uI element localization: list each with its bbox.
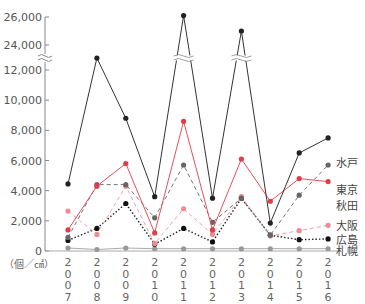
y-tick-label: 6,000 bbox=[11, 155, 43, 168]
y-tick-label: 0 bbox=[35, 245, 42, 258]
legend-label-東京: 東京 bbox=[336, 183, 358, 197]
legend-label-札幌: 札幌 bbox=[336, 244, 358, 258]
x-tick-label: 2010 bbox=[151, 256, 158, 304]
svg-text:5: 5 bbox=[296, 291, 303, 304]
data-point bbox=[123, 201, 128, 206]
legend-label-秋田: 秋田 bbox=[336, 199, 358, 213]
legend-label-大阪: 大阪 bbox=[336, 219, 358, 233]
data-point bbox=[123, 116, 128, 121]
data-point bbox=[210, 232, 215, 237]
svg-text:0: 0 bbox=[151, 291, 158, 304]
svg-text:7: 7 bbox=[65, 291, 72, 304]
legend-label-水戸: 水戸 bbox=[336, 157, 358, 170]
data-point bbox=[123, 182, 128, 187]
svg-text:6: 6 bbox=[325, 291, 332, 304]
svg-text:4: 4 bbox=[267, 291, 274, 304]
y-tick-label: 26,000 bbox=[4, 11, 43, 24]
data-point bbox=[94, 55, 99, 60]
svg-text:8: 8 bbox=[93, 291, 100, 304]
data-point bbox=[239, 246, 244, 251]
data-point bbox=[152, 241, 157, 246]
data-point bbox=[210, 227, 215, 232]
data-point bbox=[152, 194, 157, 199]
data-point bbox=[268, 246, 273, 251]
line-break-icon bbox=[174, 55, 194, 62]
svg-text:9: 9 bbox=[122, 291, 129, 304]
x-tick-label: 2014 bbox=[267, 256, 274, 304]
data-point bbox=[181, 226, 186, 231]
x-tick-label: 2009 bbox=[122, 256, 129, 304]
data-point bbox=[210, 246, 215, 251]
x-tick-label: 2008 bbox=[93, 256, 100, 304]
data-point bbox=[181, 246, 186, 251]
data-point bbox=[181, 119, 186, 124]
data-point bbox=[297, 228, 302, 233]
data-point bbox=[94, 247, 99, 252]
svg-text:3: 3 bbox=[238, 291, 245, 304]
data-point bbox=[268, 220, 273, 225]
y-tick-label: 24,000 bbox=[4, 39, 43, 52]
data-point bbox=[326, 236, 331, 241]
data-point bbox=[326, 246, 331, 251]
svg-text:2: 2 bbox=[209, 291, 216, 304]
data-point bbox=[326, 135, 331, 140]
unit-label: （個／㎠） bbox=[4, 258, 54, 270]
x-tick-label: 2011 bbox=[180, 256, 187, 304]
svg-text:1: 1 bbox=[180, 291, 187, 304]
data-point bbox=[123, 245, 128, 250]
data-point bbox=[297, 193, 302, 198]
data-point bbox=[65, 208, 70, 213]
axis-break-icon bbox=[38, 55, 52, 62]
series-layer bbox=[65, 13, 330, 252]
line-break-icon bbox=[231, 55, 251, 62]
y-tick-label: 2,000 bbox=[11, 215, 43, 228]
data-point bbox=[239, 156, 244, 161]
x-tick-label: 2012 bbox=[209, 256, 216, 304]
x-tick-label: 2015 bbox=[296, 256, 303, 304]
y-tick-label: 12,000 bbox=[4, 64, 43, 77]
data-point bbox=[65, 181, 70, 186]
legend: 水戸東京秋田大阪広島札幌 bbox=[336, 157, 358, 258]
series-秋田 bbox=[65, 119, 330, 236]
data-point bbox=[210, 196, 215, 201]
y-tick-label: 8,000 bbox=[11, 124, 43, 137]
data-point bbox=[297, 246, 302, 251]
data-point bbox=[297, 150, 302, 155]
data-point bbox=[326, 162, 331, 167]
data-point bbox=[123, 161, 128, 166]
data-point bbox=[65, 235, 70, 240]
data-point bbox=[94, 184, 99, 189]
data-point bbox=[94, 232, 99, 237]
x-axis: 2007200820092010201120122013201420152016 bbox=[45, 251, 340, 304]
data-point bbox=[94, 226, 99, 231]
x-tick-label: 2013 bbox=[238, 256, 245, 304]
data-point bbox=[152, 215, 157, 220]
y-tick-label: 4,000 bbox=[11, 185, 43, 198]
data-point bbox=[152, 230, 157, 235]
x-tick-label: 2016 bbox=[325, 256, 332, 304]
y-axis: 02,0004,0006,0008,00010,00012,00024,0002… bbox=[4, 11, 53, 258]
data-point bbox=[326, 223, 331, 228]
data-point bbox=[181, 206, 186, 211]
y-tick-label: 10,000 bbox=[4, 94, 43, 107]
data-point bbox=[268, 199, 273, 204]
data-point bbox=[210, 239, 215, 244]
data-point bbox=[268, 233, 273, 238]
data-point bbox=[181, 13, 186, 18]
data-point bbox=[65, 245, 70, 250]
data-point bbox=[239, 28, 244, 33]
x-tick-label: 2007 bbox=[65, 256, 72, 304]
data-point bbox=[297, 176, 302, 181]
data-point bbox=[65, 227, 70, 232]
data-point bbox=[326, 179, 331, 184]
data-point bbox=[152, 246, 157, 251]
data-point bbox=[239, 196, 244, 201]
line-chart: 02,0004,0006,0008,00010,00012,00024,0002… bbox=[0, 0, 365, 304]
data-point bbox=[181, 162, 186, 167]
data-point bbox=[297, 237, 302, 242]
